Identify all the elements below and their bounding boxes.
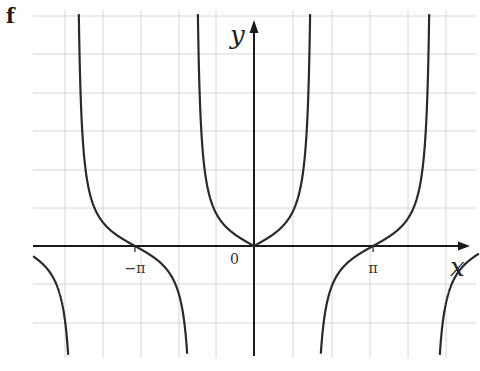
y-axis-label: y bbox=[229, 20, 245, 50]
curve-branches bbox=[33, 14, 479, 355]
y-axis-arrow-icon bbox=[250, 20, 259, 33]
branch-left bbox=[79, 14, 187, 354]
axes bbox=[33, 20, 470, 356]
branch-right bbox=[321, 14, 429, 354]
tan-abs-x-plot: −ππ 0 x y bbox=[0, 0, 480, 371]
x-tick-label: −π bbox=[124, 260, 145, 276]
x-axis-arrow-icon bbox=[458, 242, 470, 251]
branch-left-lower bbox=[33, 256, 68, 355]
x-axis-label: x bbox=[450, 252, 465, 282]
x-tick-label: π bbox=[368, 260, 377, 276]
origin-label: 0 bbox=[230, 251, 239, 267]
